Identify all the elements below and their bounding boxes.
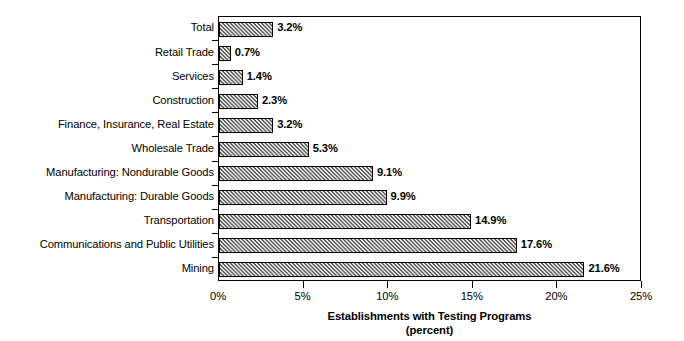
category-label: Communications and Public Utilities [0,239,214,250]
bar-value-label: 9.9% [391,191,416,202]
x-axis-title-line1: Establishments with Testing Programs [218,310,641,324]
bar [219,46,231,61]
bar [219,118,273,133]
bar-value-label: 5.3% [313,143,338,154]
bar-chart: TotalRetail TradeServicesConstructionFin… [0,0,684,341]
category-label: Transportation [0,215,214,226]
bar [219,142,309,157]
bar-value-label: 21.6% [588,263,619,274]
bar-row [219,234,640,258]
bar-row [219,186,640,210]
bar-row [219,65,640,89]
bar-value-label: 3.2% [277,22,302,33]
x-axis-tick [641,281,642,288]
category-label: Finance, Insurance, Real Estate [0,119,214,130]
x-axis-title: Establishments with Testing Programs (pe… [218,310,641,337]
x-axis-tick-label: 0% [210,291,226,302]
bar [219,94,258,109]
x-axis-tick-label: 20% [545,291,567,302]
bar [219,22,273,37]
bar [219,70,243,85]
bar-row [219,41,640,65]
bar-value-label: 1.4% [247,71,272,82]
y-axis-category-labels: TotalRetail TradeServicesConstructionFin… [0,16,214,281]
bar-value-label: 14.9% [475,215,506,226]
bar [219,166,373,181]
plot-area [218,16,641,281]
x-axis-tick-label: 15% [461,291,483,302]
bar-value-label: 0.7% [235,47,260,58]
bar-value-label: 17.6% [521,239,552,250]
category-label: Mining [0,263,214,274]
bar-row [219,137,640,161]
category-label: Construction [0,95,214,106]
x-axis-tick [556,281,557,288]
category-label: Total [0,22,214,33]
category-label: Services [0,71,214,82]
bar-value-label: 3.2% [277,119,302,130]
category-label: Retail Trade [0,47,214,58]
x-axis-tick-label: 5% [295,291,311,302]
bar [219,238,517,253]
x-axis-tick-label: 10% [376,291,398,302]
bar-value-label: 2.3% [262,95,287,106]
x-axis-tick-label: 25% [630,291,652,302]
bar-row [219,162,640,186]
bar-value-label: 9.1% [377,167,402,178]
bar [219,214,471,229]
x-axis-tick [303,281,304,288]
bar [219,190,387,205]
x-axis-tick [472,281,473,288]
x-axis-tick [387,281,388,288]
category-label: Wholesale Trade [0,143,214,154]
bar [219,262,584,277]
x-axis-title-line2: (percent) [218,324,641,338]
bar-row [219,210,640,234]
category-label: Manufacturing: Nondurable Goods [0,167,214,178]
bar-row [219,258,640,282]
category-label: Manufacturing: Durable Goods [0,191,214,202]
